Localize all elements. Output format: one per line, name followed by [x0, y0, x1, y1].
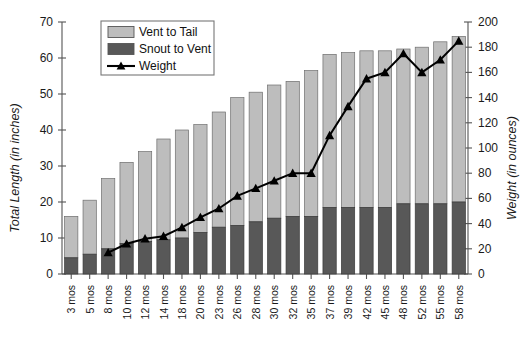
chart-legend: Vent to TailSnout to VentWeight	[101, 21, 214, 75]
bar-segment-snout-to-vent	[194, 233, 207, 274]
bar-segment-snout-to-vent	[378, 207, 391, 274]
bar-segment-vent-to-tail	[65, 216, 78, 257]
bar-segment-snout-to-vent	[83, 254, 96, 274]
x-axis-tick-label: 32 mos	[287, 285, 299, 319]
bar-segment-vent-to-tail	[101, 179, 114, 249]
x-axis-tick-label: 45 mos	[379, 285, 391, 319]
x-axis-tick-label: 3 mos	[65, 285, 77, 314]
bar-segment-snout-to-vent	[268, 218, 281, 274]
x-axis-tick-label: 52 mos	[416, 285, 428, 319]
y-axis-left-tick-label: 70	[40, 15, 54, 29]
bar-segment-snout-to-vent	[231, 225, 244, 274]
y-axis-right-tick-label: 80	[478, 166, 492, 180]
y-axis-left-tick-label: 0	[46, 267, 53, 281]
y-axis-right-tick-label: 40	[478, 217, 492, 231]
x-axis-tick-label: 14 mos	[158, 285, 170, 319]
bar-segment-snout-to-vent	[341, 207, 354, 274]
bar-segment-snout-to-vent	[120, 243, 133, 274]
bar-segment-vent-to-tail	[175, 130, 188, 238]
x-axis-tick-label: 55 mos	[434, 285, 446, 319]
bar-segment-vent-to-tail	[434, 42, 447, 204]
y-axis-left-tick-label: 20	[40, 195, 54, 209]
x-axis-tick-label: 5 mos	[84, 285, 96, 314]
y-axis-right-tick-label: 120	[478, 116, 498, 130]
bar-segment-vent-to-tail	[138, 152, 151, 242]
bar-segment-snout-to-vent	[415, 204, 428, 274]
bar-segment-snout-to-vent	[175, 238, 188, 274]
bar-segment-snout-to-vent	[304, 216, 317, 274]
bar-segment-snout-to-vent	[323, 207, 336, 274]
chart-background	[0, 0, 530, 343]
bar-segment-snout-to-vent	[286, 216, 299, 274]
legend-item[interactable]: Vent to Tail	[108, 25, 198, 39]
bar-segment-vent-to-tail	[341, 53, 354, 208]
y-axis-right-tick-label: 20	[478, 242, 492, 256]
bar-segment-snout-to-vent	[434, 204, 447, 274]
bar-segment-snout-to-vent	[212, 227, 225, 274]
x-axis-tick-label: 35 mos	[305, 285, 317, 319]
x-axis-tick-label: 30 mos	[268, 285, 280, 319]
bar-segment-vent-to-tail	[452, 36, 465, 202]
bar-segment-snout-to-vent	[452, 202, 465, 274]
legend-item-label: Vent to Tail	[139, 25, 198, 39]
y-axis-right-tick-label: 180	[478, 40, 498, 54]
chart-container: Total Length (in inches) Weight (in ounc…	[0, 0, 530, 343]
x-axis-tick-label: 48 mos	[397, 285, 409, 319]
x-axis-tick-label: 42 mos	[361, 285, 373, 319]
y-axis-right-title: Weight (in ounces)	[505, 116, 519, 220]
bar-segment-vent-to-tail	[304, 71, 317, 217]
x-axis-tick-label: 39 mos	[342, 285, 354, 319]
y-axis-right-tick-label: 160	[478, 65, 498, 79]
x-axis-tick-label: 20 mos	[194, 285, 206, 319]
y-axis-right-tick-label: 200	[478, 15, 498, 29]
legend-item-label: Weight	[139, 59, 177, 73]
bar-segment-vent-to-tail	[397, 49, 410, 204]
x-axis-tick-label: 8 mos	[102, 285, 114, 314]
x-axis-tick-label: 37 mos	[324, 285, 336, 319]
y-axis-left-title: Total Length (in inches)	[8, 103, 22, 232]
bar-segment-vent-to-tail	[249, 92, 262, 222]
combo-chart: Total Length (in inches) Weight (in ounc…	[0, 0, 530, 343]
bar-segment-vent-to-tail	[231, 98, 244, 226]
legend-item[interactable]: Snout to Vent	[108, 42, 212, 56]
y-axis-left-tick-label: 40	[40, 123, 54, 137]
bar-segment-vent-to-tail	[83, 200, 96, 254]
bar-segment-snout-to-vent	[249, 222, 262, 274]
x-axis-tick-label: 18 mos	[176, 285, 188, 319]
legend-swatch	[108, 27, 134, 38]
bar-segment-vent-to-tail	[157, 139, 170, 240]
x-axis-tick-label: 58 mos	[453, 285, 465, 319]
bar-segment-snout-to-vent	[397, 204, 410, 274]
y-axis-right-tick-label: 140	[478, 91, 498, 105]
y-axis-right-tick-label: 0	[478, 267, 485, 281]
bar-segment-snout-to-vent	[65, 258, 78, 274]
y-axis-left-tick-label: 10	[40, 231, 54, 245]
bar-segment-vent-to-tail	[286, 81, 299, 216]
bar-segment-snout-to-vent	[138, 242, 151, 274]
y-axis-right-tick-label: 60	[478, 191, 492, 205]
bar-segment-snout-to-vent	[157, 240, 170, 274]
y-axis-left-tick-label: 50	[40, 87, 54, 101]
bar-segment-vent-to-tail	[120, 162, 133, 243]
y-axis-left-tick-label: 60	[40, 51, 54, 65]
x-axis-tick-label: 10 mos	[121, 285, 133, 319]
legend-item-label: Snout to Vent	[139, 42, 212, 56]
y-axis-left-tick-label: 30	[40, 159, 54, 173]
x-axis-tick-label: 23 mos	[213, 285, 225, 319]
x-axis-tick-label: 28 mos	[250, 285, 262, 319]
bar-segment-vent-to-tail	[268, 85, 281, 218]
y-axis-right-tick-label: 100	[478, 141, 498, 155]
x-axis-tick-label: 12 mos	[139, 285, 151, 319]
legend-swatch	[108, 44, 134, 55]
bar-segment-snout-to-vent	[360, 207, 373, 274]
x-axis-tick-label: 26 mos	[231, 285, 243, 319]
